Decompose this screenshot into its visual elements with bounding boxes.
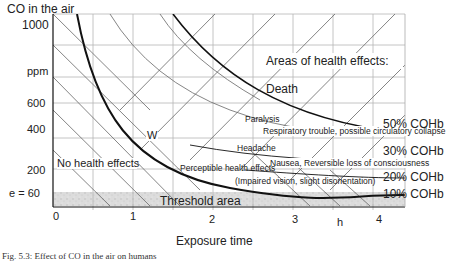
y-tick-600: 600 xyxy=(27,97,45,109)
x-tick-4: 4 xyxy=(376,213,382,225)
label-w: W xyxy=(147,129,158,141)
areas-title: Areas of health effects: xyxy=(266,54,389,68)
label-no-effects: No health effects xyxy=(57,157,140,169)
x-unit-h: h xyxy=(337,216,343,228)
x-tick-3: 3 xyxy=(292,213,298,225)
label-death: Death xyxy=(266,82,298,96)
figure-caption: Fig. 5.3: Effect of CO in the air on hum… xyxy=(2,251,157,261)
y-tick-e60: e = 60 xyxy=(9,187,40,199)
label-cohb-20: 20% COHb xyxy=(383,170,444,184)
label-impaired: (Impaired vision, slight disorientation) xyxy=(235,176,375,186)
label-nausea: Nausea, Reversible loss of consciousness xyxy=(270,158,429,168)
y-tick-400: 400 xyxy=(27,123,45,135)
x-tick-1: 1 xyxy=(130,210,136,222)
label-cohb-10: 10% COHb xyxy=(383,187,444,201)
label-headache: Headache xyxy=(237,143,276,153)
curve-50-cohb xyxy=(173,14,405,133)
x-tick-2: 2 xyxy=(209,213,215,225)
x-tick-0: 0 xyxy=(53,210,59,222)
y-axis-title: CO in the air xyxy=(7,2,74,16)
label-paralysis: Paralysis xyxy=(245,114,279,124)
x-axis-title: Exposure time xyxy=(176,234,253,248)
label-cohb-30: 30% COHb xyxy=(383,144,444,158)
y-unit-ppm: ppm xyxy=(27,65,48,77)
label-threshold: Threshold area xyxy=(160,194,241,208)
label-cohb-50: 50% COHb xyxy=(383,117,444,131)
co-health-effects-chart: CO in the air 1000 ppm 600 400 200 e = 6… xyxy=(0,0,459,261)
y-tick-200: 200 xyxy=(27,164,45,176)
label-perceptible: Perceptible health effects xyxy=(180,163,275,173)
y-tick-1000: 1000 xyxy=(22,18,49,32)
